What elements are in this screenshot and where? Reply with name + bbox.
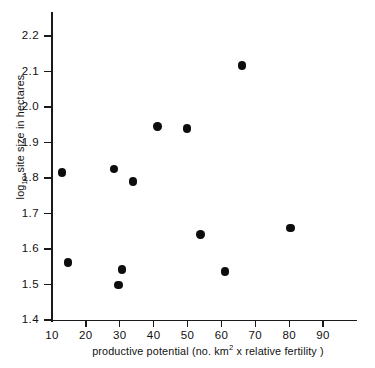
data-point bbox=[153, 122, 161, 130]
data-point bbox=[286, 224, 294, 232]
y-tick-mark bbox=[44, 284, 52, 285]
data-point bbox=[118, 265, 126, 273]
x-tick-mark bbox=[322, 320, 323, 327]
data-point bbox=[196, 230, 204, 238]
y-tick-mark bbox=[44, 106, 52, 107]
x-tick-label: 20 bbox=[71, 329, 101, 341]
x-tick-label: 10 bbox=[37, 329, 67, 341]
y-axis-title: log10 site size in hectares bbox=[14, 75, 26, 200]
x-tick-label: 90 bbox=[308, 329, 338, 341]
data-point bbox=[114, 281, 122, 289]
x-tick-mark bbox=[153, 320, 154, 327]
y-tick-mark bbox=[44, 142, 52, 143]
y-tick-mark bbox=[44, 177, 52, 178]
x-tick-mark bbox=[187, 320, 188, 327]
y-axis-title-wrapper: log10 site size in hectares bbox=[10, 22, 28, 252]
x-axis-title: productive potential (no. km2 x relative… bbox=[52, 345, 364, 357]
y-axis-title-subscript: 10 bbox=[20, 176, 29, 185]
x-tick-label: 70 bbox=[240, 329, 270, 341]
x-tick-mark bbox=[85, 320, 86, 327]
data-point bbox=[221, 267, 229, 275]
y-tick-label: 1.5 bbox=[0, 278, 39, 290]
scatter-plot-figure: 1.41.51.61.71.81.92.02.12.2 102030405060… bbox=[0, 0, 375, 368]
y-tick-mark bbox=[44, 35, 52, 36]
x-tick-mark bbox=[221, 320, 222, 327]
x-tick-mark bbox=[119, 320, 120, 327]
x-tick-label: 50 bbox=[173, 329, 203, 341]
plot-area bbox=[52, 14, 357, 320]
x-tick-mark bbox=[289, 320, 290, 327]
y-tick-mark bbox=[44, 319, 52, 320]
y-tick-mark bbox=[44, 248, 52, 249]
x-tick-label: 30 bbox=[105, 329, 135, 341]
x-tick-label: 80 bbox=[274, 329, 304, 341]
y-tick-mark bbox=[44, 213, 52, 214]
data-point bbox=[238, 61, 246, 69]
x-tick-label: 60 bbox=[206, 329, 236, 341]
data-point bbox=[129, 177, 137, 185]
x-tick-mark bbox=[255, 320, 256, 327]
x-axis-title-superscript: 2 bbox=[229, 343, 233, 352]
y-tick-label: 1.4 bbox=[0, 313, 39, 325]
x-tick-label: 40 bbox=[139, 329, 169, 341]
y-tick-mark bbox=[44, 71, 52, 72]
